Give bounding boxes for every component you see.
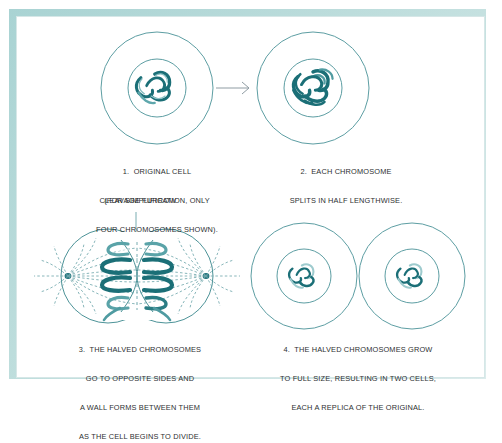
stage-2-caption: 2. EACH CHROMOSOME SPLITS IN HALF LENGTH… — [228, 148, 464, 225]
stage-2-cell-membrane — [257, 32, 369, 144]
stage-4-right-membrane — [359, 223, 465, 329]
stage-4-left-chromosomes — [289, 264, 313, 287]
stage-2-cell-group — [257, 32, 369, 144]
stage-4-caption: 4. THE HALVED CHROMOSOMES GROW TO FULL S… — [232, 326, 484, 432]
stage-2-caption-line-2: SPLITS IN HALF LENGTHWISE. — [228, 196, 464, 206]
stage-4-daughter-cell-right — [359, 223, 465, 329]
stage-4-right-nucleus — [385, 249, 439, 303]
stage-4-left-nucleus — [277, 249, 331, 303]
stage-3-caption-line-2: GO TO OPPOSITE SIDES AND — [18, 374, 262, 384]
stage-1-cell-group — [101, 32, 213, 144]
arrow-right-icon — [216, 82, 249, 94]
stage-4-caption-line-2: TO FULL SIZE, RESULTING IN TWO CELLS, — [232, 374, 484, 384]
stage-4-right-chromosomes — [397, 264, 421, 287]
stage-2-chromosomes — [293, 69, 332, 104]
stage-1-cell-membrane — [101, 32, 213, 144]
stage-2-caption-line-1: 2. EACH CHROMOSOME — [228, 167, 464, 177]
stage-1-chromosomes — [136, 72, 169, 103]
stage-3-caption-line-4: AS THE CELL BEGINS TO DIVIDE. — [18, 432, 262, 442]
stage-3-caption-line-1: 3. THE HALVED CHROMOSOMES — [18, 345, 262, 355]
stage-1-caption-line-3: FOUR CHROMOSOMES SHOWN). — [36, 225, 278, 235]
stage-4-cells-group — [251, 223, 465, 329]
stage-4-caption-line-3: EACH A REPLICA OF THE ORIGINAL. — [232, 403, 484, 413]
stage-3-caption-line-3: A WALL FORMS BETWEEN THEM — [18, 403, 262, 413]
stage-4-caption-line-1: 4. THE HALVED CHROMOSOMES GROW — [232, 345, 484, 355]
stage-3-caption: 3. THE HALVED CHROMOSOMES GO TO OPPOSITE… — [18, 326, 262, 443]
